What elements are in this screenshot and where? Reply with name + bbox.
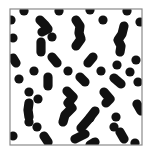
spot-chain (104, 92, 110, 103)
spot-chain (63, 91, 73, 122)
spot (24, 87, 33, 96)
spot (32, 122, 41, 131)
spot (54, 6, 63, 15)
spot-pattern-canvas (0, 0, 153, 153)
spot-chain (75, 134, 85, 139)
spot (130, 138, 139, 147)
spot (125, 67, 134, 76)
spot (96, 66, 105, 75)
blob-layer (6, 5, 144, 147)
spot-chain (88, 57, 93, 63)
spot (6, 15, 15, 24)
spot-chain (81, 111, 95, 128)
spot (112, 60, 121, 69)
spot-chain (40, 20, 48, 32)
spot-chain (120, 132, 124, 139)
spot-chain (28, 103, 29, 117)
spot-chain (44, 136, 48, 142)
spot-chain (118, 26, 124, 52)
spot-chain (76, 20, 81, 46)
spot (131, 55, 140, 64)
spot (29, 66, 38, 75)
spot (122, 6, 131, 15)
spot (85, 5, 94, 14)
spot-chain (137, 104, 141, 111)
spot (33, 94, 42, 103)
pattern-figure (0, 0, 153, 153)
spot (98, 15, 107, 24)
spot (63, 66, 72, 75)
spot-chain (52, 57, 57, 63)
spot (135, 17, 144, 26)
spot (19, 6, 28, 15)
spot (47, 32, 56, 41)
spot (111, 112, 120, 121)
spot-chain (80, 77, 85, 82)
spot (14, 74, 23, 83)
spot (133, 77, 142, 86)
spot-chain (13, 58, 16, 63)
spot-chain (114, 78, 121, 84)
